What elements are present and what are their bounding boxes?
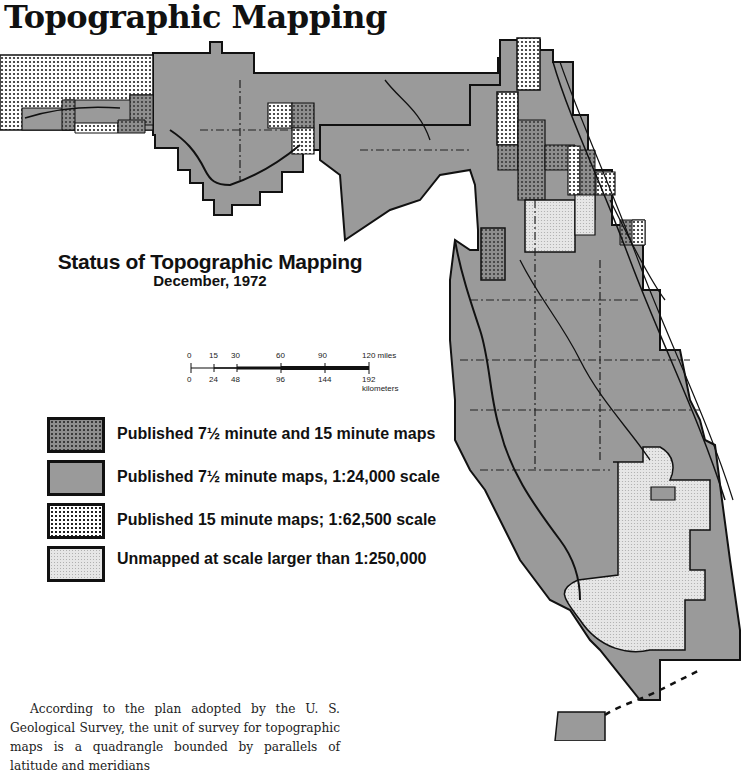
legend-swatch-gray: [47, 460, 105, 496]
scale-km-tick: 48: [231, 375, 240, 384]
legend-item-published-15: Published 15 minute maps; 1:62,500 scale: [45, 501, 465, 541]
scale-km-tick: 144: [318, 375, 331, 384]
legend-label: Published 15 minute maps; 1:62,500 scale: [117, 511, 436, 529]
legend-swatch-white-dotted: [47, 503, 105, 539]
scale-bar: 0 15 30 60 90 120 miles 0 24 48 96 144 1…: [170, 345, 410, 385]
body-text: According to the plan adopted by the U. …: [10, 700, 340, 774]
legend-label: Published 7½ minute and 15 minute maps: [117, 425, 435, 443]
legend-swatch-light-stipple: [47, 546, 105, 582]
body-paragraph: According to the plan adopted by the U. …: [10, 700, 340, 774]
legend-swatch-dark-dotted: [47, 417, 105, 453]
scale-km-tick: 0: [187, 375, 191, 384]
legend-item-published-7-5: Published 7½ minute maps, 1:24,000 scale: [45, 458, 465, 498]
legend-label: Published 7½ minute maps, 1:24,000 scale: [117, 468, 440, 486]
scale-km-tick: 192 kilometers: [362, 375, 410, 393]
map-date: December, 1972: [0, 272, 420, 289]
map-title: Status of Topographic Mapping: [0, 250, 420, 274]
scale-km-tick: 96: [276, 375, 285, 384]
map-heading: Status of Topographic Mapping December, …: [0, 250, 420, 289]
scale-km-tick: 24: [209, 375, 218, 384]
legend-label: Unmapped at scale larger than 1:250,000: [117, 550, 426, 568]
legend-item-unmapped: Unmapped at scale larger than 1:250,000: [45, 544, 465, 584]
legend-item-published-both: Published 7½ minute and 15 minute maps: [45, 415, 465, 455]
